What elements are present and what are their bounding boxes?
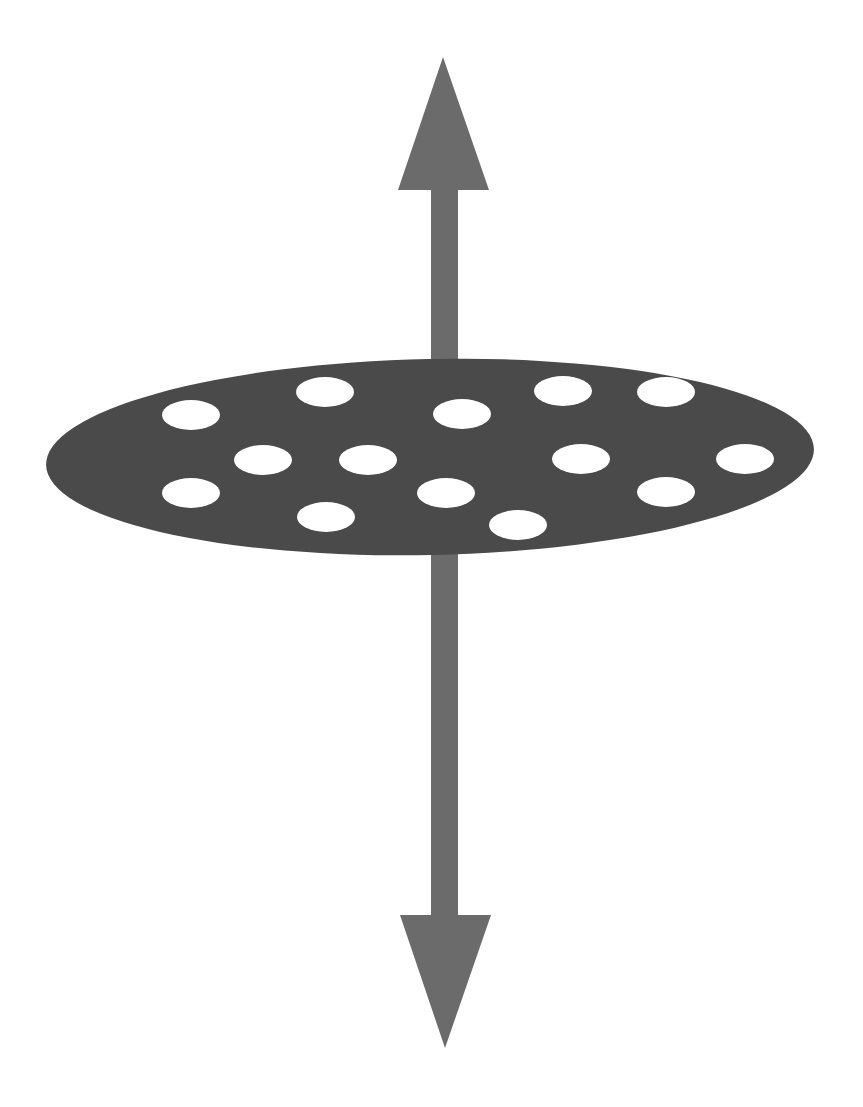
perforated-disc — [44, 351, 816, 563]
disc-hole — [417, 478, 475, 508]
disc-hole — [297, 502, 355, 532]
disc-hole — [162, 478, 220, 508]
disc-hole — [552, 444, 610, 474]
disc-hole — [534, 376, 592, 406]
disc-hole — [637, 377, 695, 407]
disc-hole — [162, 400, 220, 430]
disc-hole — [296, 377, 354, 407]
disc-hole — [339, 445, 397, 475]
disc-hole — [489, 510, 547, 540]
disc-hole — [637, 477, 695, 507]
arrow-down-head-icon — [400, 915, 491, 1048]
disc-hole — [433, 399, 491, 429]
disc-hole — [234, 445, 292, 475]
diagram-canvas — [0, 0, 863, 1107]
disc-hole — [716, 444, 774, 474]
arrow-up-head-icon — [398, 57, 489, 190]
